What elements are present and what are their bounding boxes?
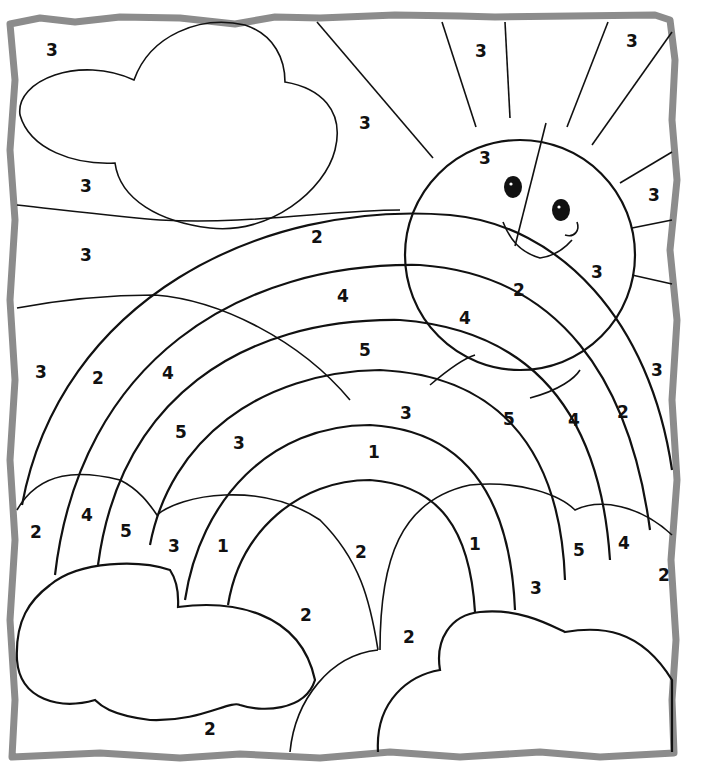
cloud-top-left: [20, 22, 337, 228]
cloud-bottom-right: [378, 611, 672, 752]
number-ground-center-left: 2: [300, 607, 312, 624]
number-hill-right-blue: 1: [469, 536, 481, 553]
sun: [405, 140, 635, 370]
number-sky-left-under-cloud: 3: [80, 178, 92, 195]
number-band-orange-sun: 4: [459, 310, 471, 327]
number-hill-right-red: 2: [658, 567, 670, 584]
page-frame: [10, 15, 677, 758]
number-hill-left-orange: 4: [81, 507, 93, 524]
hill-right: [380, 484, 672, 650]
number-sky-left-lower: 3: [35, 364, 47, 381]
number-band-yellow-top: 5: [359, 342, 371, 359]
number-band-yellow-left: 5: [175, 424, 187, 441]
number-sky-left-mid: 3: [80, 247, 92, 264]
number-hill-left-green: 3: [168, 538, 180, 555]
number-ray-right-2: 3: [591, 264, 603, 281]
number-hill-left-blue: 1: [217, 538, 229, 555]
number-band-orange-left: 4: [162, 365, 174, 382]
number-center-red: 2: [355, 544, 367, 561]
number-sky-center-top: 3: [359, 115, 371, 132]
number-band-blue-top: 1: [368, 444, 380, 461]
number-ground-center-right: 2: [403, 629, 415, 646]
number-hill-left-red: 2: [30, 524, 42, 541]
number-sky-top-left: 3: [46, 42, 58, 59]
number-band-red-top: 2: [311, 229, 323, 246]
number-band-yellow-right: 5: [503, 411, 515, 428]
number-band-green-left: 3: [233, 435, 245, 452]
coloring-page: 3 3 3 3 3 3 3 3 3 3 3 2 2 4 4 5 2 4 5 3 …: [0, 0, 701, 779]
line-art: [0, 0, 701, 779]
number-hill-right-green: 3: [530, 580, 542, 597]
number-band-green-top: 3: [400, 405, 412, 422]
number-hill-right-yellow: 5: [573, 542, 585, 559]
sky-line-2: [17, 295, 350, 400]
number-band-red-right: 2: [617, 404, 629, 421]
cloud-bottom-left: [17, 564, 315, 720]
number-sun-left: 3: [479, 150, 491, 167]
sun-band-divider: [430, 355, 475, 385]
number-hill-left-yellow: 5: [120, 523, 132, 540]
number-ray-top-2: 3: [626, 33, 638, 50]
sun-rays: [317, 22, 672, 284]
number-hill-right-orange: 4: [618, 535, 630, 552]
number-ray-top-1: 3: [475, 43, 487, 60]
number-band-orange-right: 4: [568, 412, 580, 429]
number-band-red-left: 2: [92, 370, 104, 387]
number-ground-bottom: 2: [204, 721, 216, 738]
number-band-red-sun: 2: [513, 282, 525, 299]
number-ray-right-1: 3: [648, 187, 660, 204]
number-band-orange-top: 4: [337, 288, 349, 305]
number-sky-right: 3: [651, 362, 663, 379]
ground-divider: [290, 650, 378, 752]
